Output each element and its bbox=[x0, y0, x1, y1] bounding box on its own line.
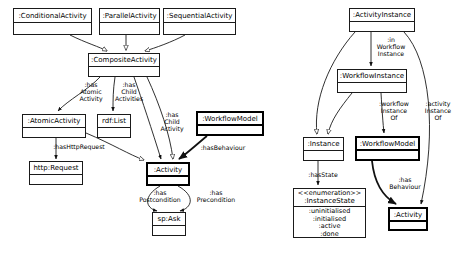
enumeration-name: :InstanceState bbox=[298, 197, 361, 205]
class-attrs-activity-left bbox=[148, 177, 188, 184]
class-attrs-parallel-activity bbox=[100, 23, 159, 34]
edge-sequential-to-composite bbox=[145, 35, 185, 51]
class-name-workflow-model-right: :WorkflowModel bbox=[357, 138, 418, 151]
enumeration-value: :done bbox=[296, 231, 363, 239]
class-name-composite-activity: :CompositeActivity bbox=[89, 54, 159, 67]
class-box-atomic-activity[interactable]: :AtomicActivity bbox=[22, 114, 86, 138]
class-attrs-http-request bbox=[30, 175, 82, 184]
class-name-parallel-activity: :ParallelActivity bbox=[100, 9, 159, 23]
class-attrs-workflow-model-right bbox=[357, 151, 418, 159]
class-attrs-composite-activity bbox=[89, 67, 159, 76]
class-box-activity-instance[interactable]: :ActivityInstance bbox=[349, 8, 415, 32]
class-box-conditional-activity[interactable]: :ConditionalActivity bbox=[13, 8, 92, 35]
class-attrs-sp-ask bbox=[153, 226, 185, 235]
uml-diagram-canvas: :ConditionalActivity :ParallelActivity :… bbox=[0, 0, 470, 253]
edge-label-has-http-request: :hasHttpRequest bbox=[48, 144, 110, 151]
enumeration-values-instance-state: :uninitialised:initialised:active:done bbox=[294, 207, 365, 239]
class-box-activity-left[interactable]: :Activity bbox=[146, 162, 190, 186]
class-attrs-sequential-activity bbox=[164, 23, 235, 34]
class-box-parallel-activity[interactable]: :ParallelActivity bbox=[99, 8, 160, 35]
class-name-rdf-list: rdf:List bbox=[98, 115, 130, 128]
class-name-activity-right: :Activity bbox=[390, 209, 426, 222]
edge-label-has-atomic-activity: :has Atomic Activity bbox=[74, 82, 108, 102]
class-name-activity-left: :Activity bbox=[148, 164, 188, 177]
class-box-workflow-instance[interactable]: :WorkflowInstance bbox=[337, 69, 407, 93]
edge-label-has-child-activities: :has Child Activities bbox=[110, 82, 148, 102]
class-attrs-workflow-model-left bbox=[198, 126, 262, 134]
class-box-sp-ask[interactable]: sp:Ask bbox=[152, 212, 186, 236]
enumeration-header-instance-state: <<enumeration>> :InstanceState bbox=[294, 189, 365, 207]
edge-label-activity-instance-of: :activity Instance Of bbox=[420, 101, 456, 121]
class-attrs-instance bbox=[304, 151, 343, 160]
edge-label-has-child-activity: :has Child Activity bbox=[155, 112, 189, 132]
class-box-http-request[interactable]: http:Request bbox=[29, 161, 83, 185]
class-box-activity-right[interactable]: :Activity bbox=[388, 207, 428, 231]
class-attrs-rdf-list bbox=[98, 128, 130, 137]
class-box-rdf-list[interactable]: rdf:List bbox=[97, 114, 131, 138]
edge-label-has-behaviour-right: :has Behaviour bbox=[385, 177, 425, 191]
edge-label-workflow-instance-of: :workflow Instance Of bbox=[375, 101, 413, 121]
class-name-activity-instance: :ActivityInstance bbox=[350, 9, 414, 22]
class-name-workflow-instance: :WorkflowInstance bbox=[338, 70, 406, 83]
class-name-workflow-model-left: :WorkflowModel bbox=[198, 113, 262, 126]
edge-label-in-workflow-instance: :in Workflow Instance bbox=[371, 37, 411, 57]
edge-label-has-state: :hasState bbox=[303, 172, 343, 179]
class-attrs-atomic-activity bbox=[23, 128, 85, 137]
enumeration-box-instance-state[interactable]: <<enumeration>> :InstanceState :uninitia… bbox=[293, 188, 366, 238]
class-box-workflow-model-right[interactable]: :WorkflowModel bbox=[355, 136, 420, 161]
class-name-sp-ask: sp:Ask bbox=[153, 213, 185, 226]
edge-label-has-behaviour-left: :hasBehaviour bbox=[196, 145, 250, 152]
enumeration-stereotype: <<enumeration>> bbox=[298, 190, 361, 198]
class-name-http-request: http:Request bbox=[30, 162, 82, 175]
class-box-instance[interactable]: :Instance bbox=[303, 137, 344, 161]
edge-conditional-to-composite bbox=[70, 35, 107, 51]
class-box-workflow-model-left[interactable]: :WorkflowModel bbox=[196, 111, 264, 136]
class-attrs-activity-instance bbox=[350, 22, 414, 31]
class-attrs-activity-right bbox=[390, 222, 426, 229]
edge-workflowinstance-to-instance-gen bbox=[328, 93, 352, 134]
class-name-conditional-activity: :ConditionalActivity bbox=[14, 9, 91, 23]
class-name-atomic-activity: :AtomicActivity bbox=[23, 115, 85, 128]
edge-label-has-precondition: :has Precondition bbox=[190, 190, 242, 204]
class-box-sequential-activity[interactable]: :SequentialActivity bbox=[163, 8, 236, 35]
class-name-instance: :Instance bbox=[304, 138, 343, 151]
class-attrs-conditional-activity bbox=[14, 23, 91, 34]
class-box-composite-activity[interactable]: :CompositeActivity bbox=[88, 53, 160, 77]
edge-label-has-postcondition: :has Postcondition bbox=[133, 190, 187, 204]
class-attrs-workflow-instance bbox=[338, 83, 406, 92]
class-name-sequential-activity: :SequentialActivity bbox=[164, 9, 235, 23]
